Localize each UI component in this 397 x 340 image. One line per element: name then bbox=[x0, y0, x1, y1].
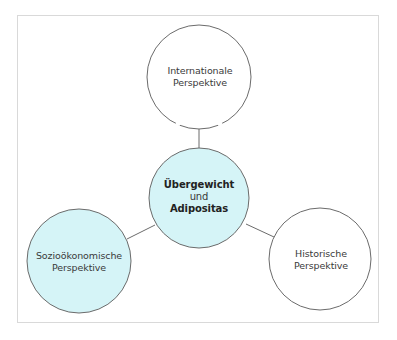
node-international: Internationale Perspektive bbox=[167, 65, 232, 89]
connector-historisch bbox=[246, 224, 274, 237]
node-soziooekonomisch: Sozioökonomische Perspektive bbox=[36, 250, 122, 274]
center-title-line1: Übergewicht bbox=[164, 179, 234, 191]
stroke-gap bbox=[218, 123, 222, 125]
node-soziooekonomisch-line2: Perspektive bbox=[36, 262, 122, 274]
connector-soziooekonomisch bbox=[127, 225, 155, 239]
node-center: Übergewicht und Adipositas bbox=[164, 179, 234, 215]
node-historisch-line1: Historische bbox=[294, 248, 348, 260]
node-international-line2: Perspektive bbox=[167, 77, 232, 89]
node-historisch: Historische Perspektive bbox=[294, 248, 348, 272]
center-conjunction: und bbox=[164, 191, 234, 203]
node-historisch-line2: Perspektive bbox=[294, 260, 348, 272]
stroke-gap bbox=[176, 123, 180, 125]
diagram-canvas bbox=[0, 0, 397, 340]
node-international-line1: Internationale bbox=[167, 65, 232, 77]
node-soziooekonomisch-line1: Sozioökonomische bbox=[36, 250, 122, 262]
center-title-line2: Adipositas bbox=[164, 203, 234, 215]
